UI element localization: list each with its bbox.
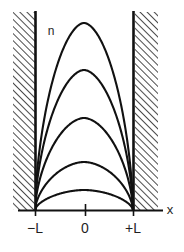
x-axis-label: x — [167, 202, 174, 217]
wavefunction-curves — [35, 23, 133, 210]
right-barrier — [134, 11, 159, 211]
left-barrier-hatch — [13, 12, 35, 210]
curve-4 — [35, 162, 133, 210]
right-barrier-hatch — [135, 12, 158, 210]
x-axis-tick-labels: −L0+L — [27, 220, 141, 236]
standing-wave-plot: −L0+L x n — [0, 0, 184, 252]
left-barrier — [13, 11, 36, 211]
y-axis-label: n — [48, 24, 55, 38]
curve-1 — [35, 23, 133, 210]
curve-5 — [35, 190, 133, 210]
figure-container: −L0+L x n — [0, 0, 184, 252]
x-axis-tick-label: −L — [27, 220, 43, 236]
curve-3 — [35, 118, 133, 210]
x-axis-tick-label: 0 — [81, 220, 89, 236]
x-axis-tick-label: +L — [125, 220, 141, 236]
